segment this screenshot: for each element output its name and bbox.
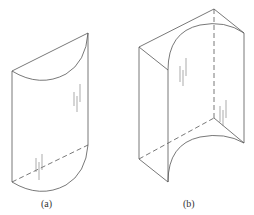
fig-b-top-right-edge	[214, 9, 244, 33]
diagram-canvas	[0, 0, 254, 215]
figure-a	[12, 33, 88, 191]
fig-b-bottom-right-edge	[214, 118, 244, 143]
fig-b-hatch-lower	[220, 100, 226, 126]
fig-b-top-front-diagonal	[139, 47, 168, 70]
fig-b-top-arc	[168, 24, 244, 70]
fig-a-bottom-arc	[12, 145, 88, 191]
caption-b: (b)	[183, 198, 195, 209]
fig-b-top-left-edge	[139, 9, 214, 47]
fig-b-bottom-arc	[168, 135, 244, 182]
fig-b-hatch-upper	[180, 58, 186, 86]
fig-a-hatch-upper	[74, 84, 80, 112]
fig-a-hatch-lower	[36, 154, 42, 180]
fig-b-hidden-bottom-edge	[139, 118, 214, 159]
fig-a-top-arc	[12, 33, 88, 80]
figure-b	[139, 9, 244, 182]
caption-a: (a)	[41, 198, 52, 209]
fig-b-bottom-front-diagonal	[139, 159, 168, 182]
